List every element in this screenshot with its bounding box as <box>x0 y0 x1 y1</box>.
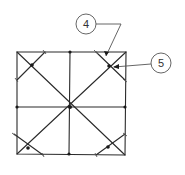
brace-bottom-right <box>96 134 125 155</box>
callout-4-label: 4 <box>83 18 89 30</box>
brace-bottom-left <box>14 134 43 155</box>
diagram-canvas: 4 5 <box>0 0 185 175</box>
callout-5-label: 5 <box>158 57 164 69</box>
callout-4: 4 <box>76 14 121 56</box>
